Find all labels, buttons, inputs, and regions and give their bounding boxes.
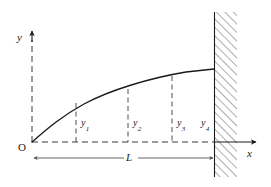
deflection-label-y2-base: y [133,117,137,128]
y-axis-label: y [17,32,22,43]
deflection-label-y4-base: y [201,117,205,128]
x-axis-label: x [247,148,252,159]
deflection-curve [32,69,214,142]
origin-label: O [18,142,26,153]
deflection-label-y1-base: y [81,117,85,128]
deflection-label-y3-base: y [177,117,181,128]
fixed-wall [215,12,238,177]
deflection-label-y3-sub: 3 [182,125,186,133]
beam-deflection-figure: y x O L y1 y2 y3 y4 [0,0,271,187]
span-length-label: L [126,152,132,163]
deflection-label-y3: y3 [177,118,185,131]
deflection-label-y1: y1 [81,118,89,131]
deflection-label-y2: y2 [133,118,141,131]
ordinate-lines [76,76,172,142]
deflection-label-y1-sub: 1 [86,125,90,133]
deflection-label-y4-sub: 4 [206,125,210,133]
figure-canvas [0,0,271,187]
deflection-label-y4: y4 [201,118,209,131]
deflection-label-y2-sub: 2 [138,125,142,133]
